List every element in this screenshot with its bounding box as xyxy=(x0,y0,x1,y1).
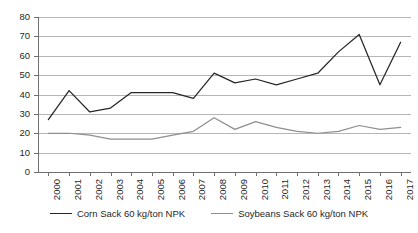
legend-line-swatch-soybeans xyxy=(211,213,233,214)
y-tick-mark-0 xyxy=(34,172,38,173)
y-tick-mark-10 xyxy=(34,153,38,154)
y-tick-mark-50 xyxy=(34,75,38,76)
series-line-soybeans xyxy=(48,118,400,139)
chart-container: 01020304050607080 2000200120022003200420… xyxy=(0,0,418,233)
y-tick-mark-70 xyxy=(34,36,38,37)
legend-label-corn: Corn Sack 60 kg/ton NPK xyxy=(77,209,185,219)
legend-item-corn: Corn Sack 60 kg/ton NPK xyxy=(50,209,185,219)
legend-line-swatch-corn xyxy=(50,213,72,214)
chart-legend: Corn Sack 60 kg/ton NPK Soybeans Sack 60… xyxy=(0,209,418,219)
y-tick-mark-80 xyxy=(34,17,38,18)
y-tick-mark-30 xyxy=(34,114,38,115)
series-layer xyxy=(0,0,418,233)
series-line-corn xyxy=(48,34,400,119)
y-tick-mark-40 xyxy=(34,95,38,96)
y-tick-mark-60 xyxy=(34,56,38,57)
y-tick-mark-20 xyxy=(34,133,38,134)
legend-label-soybeans: Soybeans Sack 60 kg/ton NPK xyxy=(238,209,368,219)
legend-item-soybeans: Soybeans Sack 60 kg/ton NPK xyxy=(211,209,368,219)
